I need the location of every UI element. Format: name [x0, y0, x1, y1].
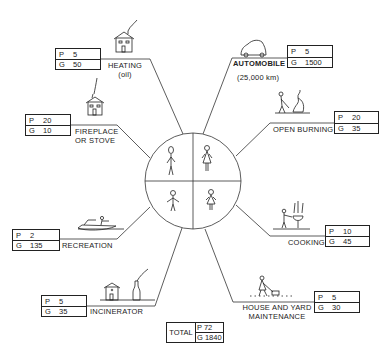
automobile-g-value: 1500: [305, 57, 322, 66]
fireplace-label: FIREPLACE OR STOVE: [75, 127, 118, 145]
heating-label: HEATING (oil): [102, 61, 148, 79]
g-key: G: [338, 123, 344, 132]
incinerator-icon: [100, 269, 155, 300]
p-key: P: [29, 116, 34, 125]
house-yard-label: HOUSE AND YARD MAINTENANCE: [242, 303, 312, 321]
g-key: G: [291, 57, 297, 66]
open-burning-p-value: 20: [352, 113, 360, 122]
recreation-value-box: P2 G135: [12, 229, 60, 251]
incinerator-g-value: 35: [59, 307, 67, 316]
total-label: TOTAL: [167, 323, 196, 342]
incinerator-connector: [87, 228, 182, 306]
incinerator-label: INCINERATOR: [90, 307, 143, 316]
total-box: TOTAL P 72 G 1840: [166, 322, 224, 343]
g-key: G: [329, 237, 335, 246]
cooking-p-value: 10: [343, 227, 351, 236]
cooking-connector: [236, 205, 325, 236]
woman-icon: [202, 146, 212, 172]
g-key: G: [45, 307, 51, 316]
man-icon: [167, 147, 175, 176]
house-yard-value-box: P5 G30: [314, 291, 360, 313]
fireplace-sublabel: OR STOVE: [75, 136, 118, 145]
heating-g-value: 50: [73, 60, 81, 69]
recreation-connector: [60, 207, 150, 239]
fireplace-house-icon: [86, 78, 104, 115]
p-key: P: [291, 47, 296, 56]
cooking-g-value: 45: [343, 237, 351, 246]
open-burning-value-box: P20 G35: [334, 111, 379, 134]
house-yard-sublabel: MAINTENANCE: [242, 312, 312, 321]
open-burning-g-value: 35: [352, 123, 360, 132]
boy-icon: [167, 191, 179, 212]
recreation-label: RECREATION: [62, 241, 113, 250]
g-key: G: [16, 241, 22, 250]
p-key: P: [16, 231, 21, 240]
automobile-sublabel: (25,000 km): [237, 73, 279, 82]
recreation-g-value: 135: [30, 241, 43, 250]
heating-sublabel: (oil): [102, 70, 148, 79]
people-icons: [167, 146, 216, 212]
g-key: G: [318, 303, 324, 312]
automobile-value-box: P5 G1500: [287, 45, 333, 68]
p-key: P: [45, 297, 50, 306]
car-icon: [241, 40, 266, 57]
incinerator-p-value: 5: [59, 297, 63, 306]
recreation-p-value: 2: [30, 231, 34, 240]
cooking-label: COOKING: [288, 238, 325, 247]
fireplace-p-value: 20: [43, 116, 51, 125]
g-key: G: [29, 126, 35, 135]
open-fire-icon: [275, 90, 310, 113]
incinerator-value-box: P5 G35: [41, 295, 87, 317]
fireplace-value-box: P20 G10: [25, 114, 71, 136]
p-key: P: [59, 50, 64, 59]
cooking-value-box: P10 G45: [325, 225, 370, 247]
g-key: G: [59, 60, 65, 69]
motorboat-icon: [78, 216, 124, 230]
house-yard-p-value: 5: [332, 293, 336, 302]
heating-house-icon: [114, 20, 137, 52]
girl-icon: [206, 190, 216, 211]
p-key: P: [329, 227, 334, 236]
open-burning-label: OPEN BURNING: [273, 125, 333, 134]
total-g-value: G 1840: [195, 333, 223, 343]
p-key: P: [318, 293, 323, 302]
emissions-diagram: P5 G50 HEATING (oil) P20 G10 FIREPLACE O…: [0, 0, 392, 356]
heating-p-value: 5: [73, 50, 77, 59]
p-key: P: [338, 113, 343, 122]
fireplace-g-value: 10: [43, 126, 51, 135]
house-yard-g-value: 30: [332, 303, 340, 312]
lawnmower-icon: [250, 276, 295, 296]
heating-value-box: P5 G50: [55, 48, 101, 70]
total-p-value: P 72: [195, 323, 223, 333]
automobile-label: AUTOMOBILE: [233, 59, 285, 68]
barbecue-icon: [273, 201, 310, 229]
automobile-p-value: 5: [305, 47, 309, 56]
